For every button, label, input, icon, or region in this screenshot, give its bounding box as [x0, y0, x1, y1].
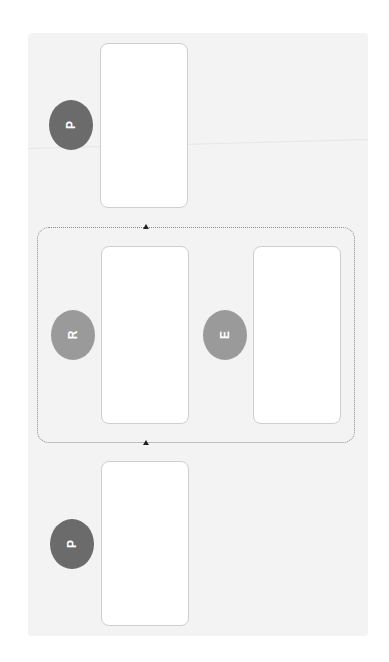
card-r[interactable] [101, 246, 189, 424]
diagram-canvas: P R E P [0, 0, 389, 662]
card-e[interactable] [253, 246, 341, 424]
badge-e-label: E [218, 331, 232, 339]
card-p-bottom[interactable] [101, 461, 189, 626]
card-p-top[interactable] [100, 43, 188, 208]
arrow-up-icon [143, 224, 149, 229]
badge-p-bottom[interactable]: P [50, 519, 94, 569]
badge-e[interactable]: E [203, 310, 247, 360]
badge-p-top[interactable]: P [49, 100, 93, 150]
badge-r-label: R [66, 331, 80, 340]
badge-p-top-label: P [64, 121, 78, 129]
badge-p-bottom-label: P [65, 540, 79, 548]
arrow-up-icon [143, 440, 149, 445]
badge-r[interactable]: R [51, 310, 95, 360]
